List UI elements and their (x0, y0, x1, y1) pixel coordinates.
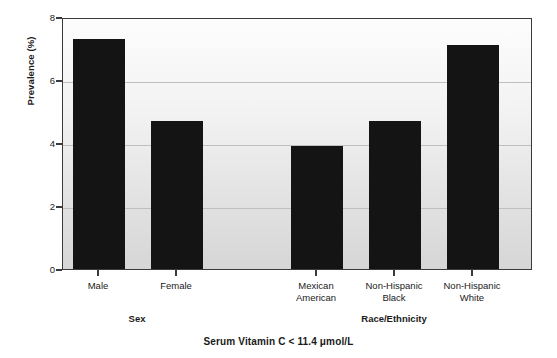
y-tick-label: 0 (15, 265, 55, 275)
x-tick-label-line2: White (417, 292, 527, 304)
x-tick-label-line1: Non-Hispanic (365, 280, 422, 291)
x-tick-label-line1: Non-Hispanic (443, 280, 500, 291)
x-tick-label-line1: Mexican (298, 280, 333, 291)
x-tick-label-line1: Female (160, 280, 192, 291)
bar-chart-figure: Prevalence (%) 86420 MaleFemaleMexicanAm… (0, 0, 557, 358)
group-label: Sex (47, 313, 227, 324)
group-label: Race/Ethnicity (304, 313, 484, 324)
x-tick-mark (315, 270, 316, 276)
bar (369, 121, 421, 269)
bar (291, 146, 343, 269)
y-tick-label: 6 (15, 76, 55, 86)
x-tick-mark (97, 270, 98, 276)
x-tick-mark (175, 270, 176, 276)
x-tick-mark (471, 270, 472, 276)
x-tick-label: Non-HispanicWhite (417, 280, 527, 303)
y-tick-label: 8 (15, 13, 55, 23)
bar (151, 121, 203, 269)
y-tick-label: 4 (15, 139, 55, 149)
x-tick-label-line1: Male (88, 280, 109, 291)
y-axis-title: Prevalence (%) (25, 21, 39, 121)
x-tick-label: Female (121, 280, 231, 292)
chart-caption: Serum Vitamin C < 11.4 μmol/L (0, 336, 557, 347)
x-tick-mark (393, 270, 394, 276)
bar (447, 45, 499, 269)
bar (73, 39, 125, 269)
plot-area (62, 18, 532, 270)
y-tick-label: 2 (15, 202, 55, 212)
